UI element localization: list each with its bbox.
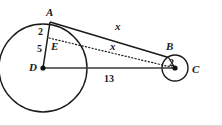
measure-label-tangent-AB: x	[115, 21, 121, 32]
measure-label-AE: 2	[38, 27, 43, 37]
point-D-dot	[40, 65, 45, 70]
point-label-D: D	[29, 62, 37, 73]
measure-label-DC: 13	[104, 74, 114, 84]
bottom-divider	[0, 125, 222, 126]
geometry-figure: A B C D E 2 5 2 13 x x	[0, 0, 222, 126]
point-label-E: E	[51, 41, 58, 52]
measure-label-EC: x	[110, 41, 116, 52]
point-label-A: A	[46, 7, 53, 18]
measure-label-radius-small: 2	[169, 58, 174, 68]
point-label-C: C	[192, 64, 199, 75]
point-label-B: B	[166, 41, 173, 52]
segment-AD	[43, 22, 50, 68]
measure-label-ED: 5	[37, 44, 42, 54]
